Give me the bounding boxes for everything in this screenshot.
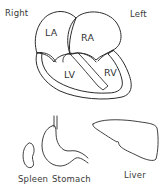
chamber-label-la: LA bbox=[45, 28, 57, 38]
chamber-label-rv: RV bbox=[104, 68, 117, 78]
liver-icon bbox=[93, 120, 158, 161]
spleen-icon bbox=[23, 143, 34, 168]
anatomy-drawing bbox=[0, 0, 166, 195]
situs-diagram: Right Left LA RA LV RV Spleen Stomach Li… bbox=[0, 0, 166, 195]
chamber-label-ra: RA bbox=[81, 33, 94, 43]
stomach-icon bbox=[42, 116, 88, 166]
chamber-label-lv: LV bbox=[64, 70, 75, 80]
orientation-right-label: Right bbox=[5, 9, 28, 18]
organ-label-liver: Liver bbox=[124, 171, 146, 180]
organ-label-stomach: Stomach bbox=[52, 175, 91, 184]
organ-label-spleen: Spleen bbox=[18, 175, 48, 184]
heart-icon bbox=[35, 11, 131, 99]
orientation-left-label: Left bbox=[130, 10, 147, 19]
